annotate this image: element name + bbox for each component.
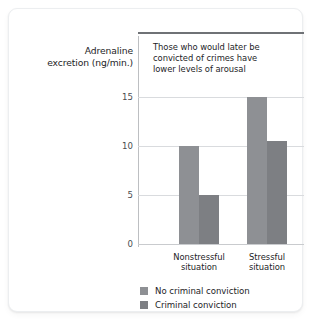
figure-card: Adrenaline excretion (ng/min.) Those who… [8, 8, 303, 312]
legend-item-label: No criminal conviction [155, 286, 250, 296]
y-axis-title: Adrenaline excretion (ng/min.) [15, 45, 133, 70]
x-axis-category-label: Stressful situation [227, 252, 307, 273]
chart-axes: 051015 [138, 32, 304, 247]
y-axis-tick-label: 0 [128, 239, 133, 249]
legend-item-label: Criminal conviction [155, 300, 237, 310]
bar [199, 195, 219, 244]
bar [179, 146, 199, 244]
chart-legend: No criminal conviction Criminal convicti… [140, 285, 250, 313]
gridline [138, 97, 304, 98]
x-axis-category-line-2: situation [227, 262, 307, 272]
legend-swatch-icon [140, 301, 148, 309]
legend-item: No criminal conviction [140, 285, 250, 297]
y-axis-tick-label: 5 [128, 190, 133, 200]
y-axis-title-line-1: Adrenaline [15, 45, 133, 57]
legend-swatch-icon [140, 287, 148, 295]
y-axis-title-line-2: excretion (ng/min.) [15, 57, 133, 69]
bar [267, 141, 287, 244]
legend-item: Criminal conviction [140, 299, 250, 311]
y-axis-tick-label: 10 [122, 141, 133, 151]
bar [247, 97, 267, 244]
x-axis-category-line-1: Stressful [227, 252, 307, 262]
x-axis-baseline [138, 244, 304, 245]
y-axis-tick-label: 15 [122, 92, 133, 102]
